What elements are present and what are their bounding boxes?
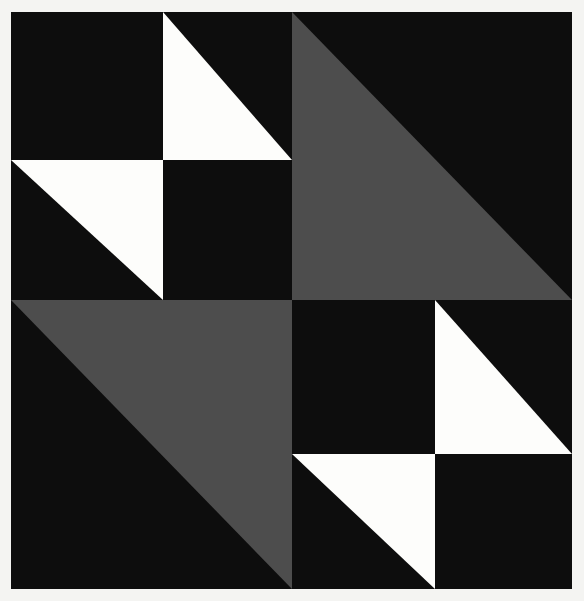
canvas-stage xyxy=(0,0,584,601)
artboard xyxy=(11,12,572,589)
geometric-composition-svg xyxy=(11,12,572,589)
